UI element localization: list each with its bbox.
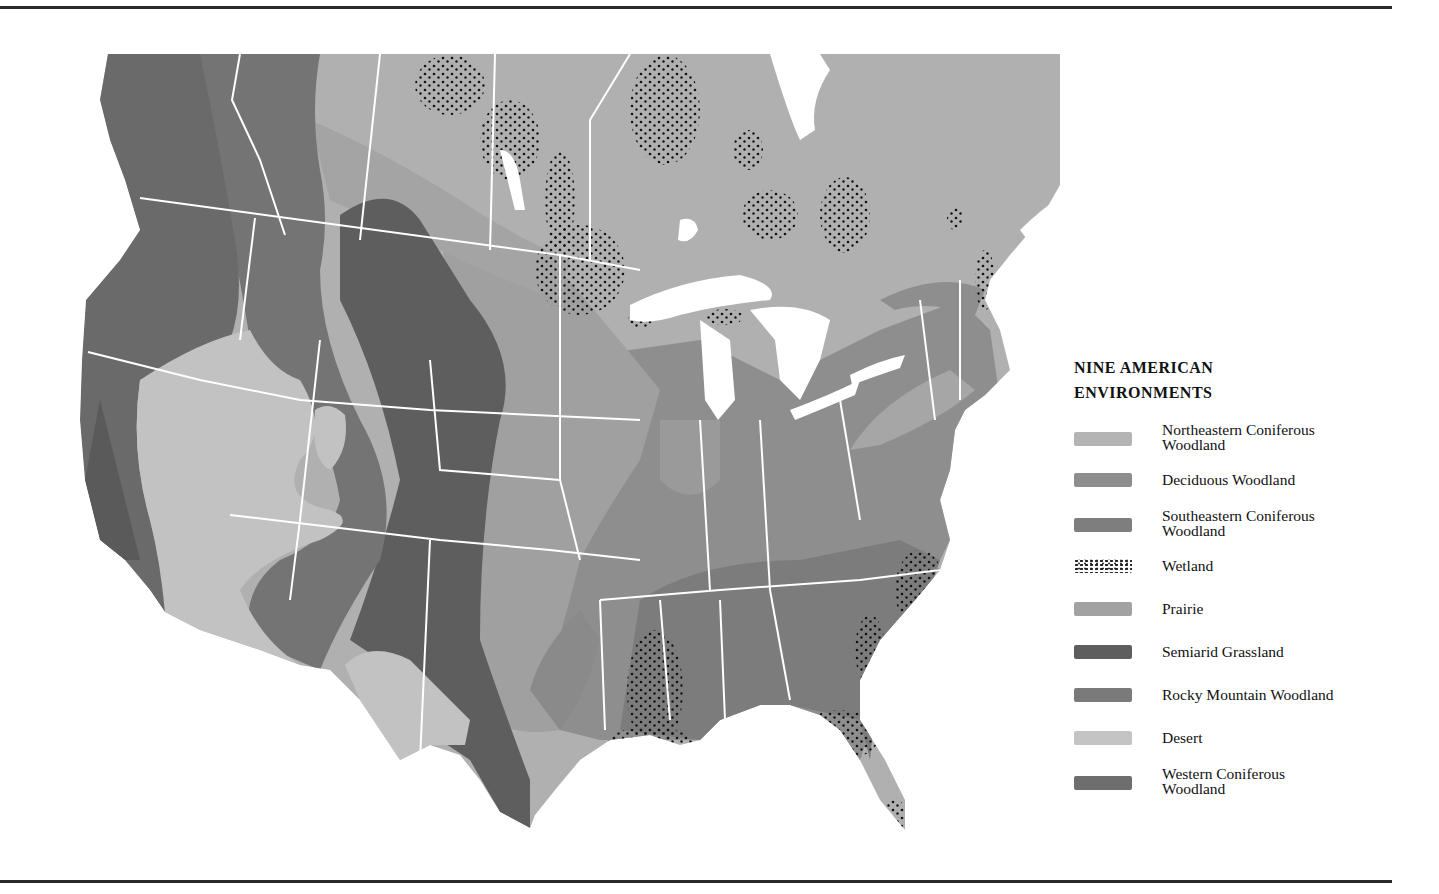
- map-legend: NINE AMERICAN ENVIRONMENTS Northeastern …: [1074, 355, 1414, 802]
- legend-item-desert: Desert: [1074, 716, 1414, 759]
- legend-item-semiarid-grassland: Semiarid Grassland: [1074, 630, 1414, 673]
- swatch-prairie: [1074, 602, 1132, 616]
- swatch-deciduous: [1074, 473, 1132, 487]
- swatch-southeastern-coniferous: [1074, 518, 1132, 532]
- land-regions: [0, 0, 1060, 894]
- legend-item-prairie: Prairie: [1074, 587, 1414, 630]
- legend-item-northeastern-coniferous: Northeastern ConiferousWoodland: [1074, 415, 1414, 458]
- swatch-northeastern-coniferous: [1074, 432, 1132, 446]
- legend-item-wetland: Wetland: [1074, 544, 1414, 587]
- legend-item-rocky-mountain: Rocky Mountain Woodland: [1074, 673, 1414, 716]
- swatch-western-coniferous: [1074, 776, 1132, 790]
- legend-item-western-coniferous: Western ConiferousWoodland: [1074, 759, 1414, 802]
- environments-map: [0, 0, 1060, 894]
- legend-title: NINE AMERICAN ENVIRONMENTS: [1074, 355, 1414, 405]
- legend-item-deciduous: Deciduous Woodland: [1074, 458, 1414, 501]
- legend-item-southeastern-coniferous: Southeastern ConiferousWoodland: [1074, 501, 1414, 544]
- swatch-desert: [1074, 731, 1132, 745]
- swatch-semiarid-grassland: [1074, 645, 1132, 659]
- swatch-wetland: [1074, 559, 1132, 573]
- swatch-rocky-mountain: [1074, 688, 1132, 702]
